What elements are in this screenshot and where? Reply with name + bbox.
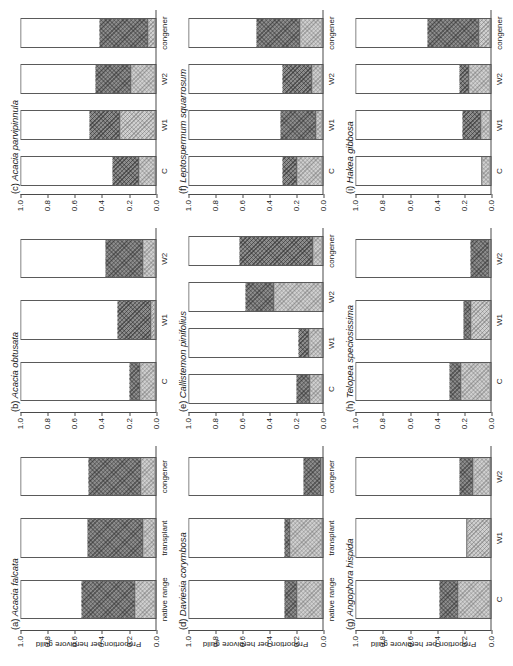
y-tick-label-b-1: 0.8 [43,418,51,429]
stacked-bar[interactable] [20,64,156,93]
stacked-bar[interactable] [355,457,491,496]
stacked-bar[interactable] [20,156,156,185]
stacked-bar[interactable] [355,580,491,619]
y-tick-mark-e-3 [269,412,270,416]
y-tick-mark-a-4 [129,630,130,634]
stacked-bar[interactable] [355,518,491,557]
stacked-bar[interactable] [20,300,156,339]
y-tick-mark-h-0 [355,412,356,416]
bar-segment-guild-dark [427,19,479,46]
x-tick-label: congener [323,228,339,274]
y-tick-label-e-3: 0.4 [265,418,273,429]
stacked-bar[interactable] [355,64,491,93]
y-tick-label-c-1: 0.8 [43,200,51,211]
y-axis-spine-c [20,194,156,195]
panel-title-e: (e) Callistemon pinifolius [176,228,187,412]
stacked-bar[interactable] [20,580,156,619]
stacked-bar[interactable] [188,457,324,496]
bar-segment-guild-light [458,581,490,618]
y-tick-label-i-0: 1.0 [351,200,359,211]
bar-segment-guild-light [482,157,490,184]
y-axis-d: 1.00.80.60.40.20.0Proportion per herbivo… [188,630,324,660]
x-tick-label: C [323,366,339,412]
bar-segment-guild-dark [284,581,297,618]
panel-i: (i) Hakea gibbosa1.00.80.60.40.20.0CW1W2… [341,8,509,226]
bar-segment-remainder [189,283,245,310]
y-tick-mark-i-3 [437,194,438,198]
bar-segment-guild-light [297,581,322,618]
y-tick-label-f-5: 0.0 [319,200,327,211]
bar-segment-guild-dark [298,329,309,356]
stacked-bar[interactable] [188,282,324,311]
y-tick-label-b-3: 0.4 [97,418,105,429]
stacked-bar[interactable] [188,236,324,265]
plot-wrapper-a: 1.00.80.60.40.20.0Proportion per herbivo… [20,446,156,660]
bar-slot [188,507,324,568]
plot-wrapper-i: 1.00.80.60.40.20.0 [355,10,491,224]
bar-slot [188,320,324,366]
y-axis-spine-b [20,412,156,413]
stacked-bar[interactable] [20,110,156,139]
x-axis-g: CW1W2 [491,446,507,630]
stacked-bar[interactable] [20,457,156,496]
stacked-bar[interactable] [355,18,491,47]
stacked-bar[interactable] [188,374,324,403]
stacked-bar[interactable] [355,239,491,278]
y-axis-spine-a [20,630,156,631]
y-tick-mark-c-5 [156,194,157,198]
stacked-bar[interactable] [355,156,491,185]
stacked-bar[interactable] [355,362,491,401]
bar-segment-guild-dark [282,157,297,184]
plot-area-i [355,10,491,194]
stacked-bar[interactable] [188,580,324,619]
plot-wrapper-b: 1.00.80.60.40.20.0 [20,228,156,442]
stacked-bar[interactable] [20,518,156,557]
stacked-bar[interactable] [20,18,156,47]
x-tick-label: W1 [491,507,507,568]
bar-segment-remainder [189,111,280,138]
stacked-bar[interactable] [188,328,324,357]
stacked-bar[interactable] [188,110,324,139]
y-tick-mark-d-3 [269,630,270,634]
bar-segment-remainder [356,519,466,556]
stacked-bar[interactable] [188,518,324,557]
y-tick-label-i-5: 0.0 [487,200,495,211]
bar-segment-remainder [189,237,240,264]
plot-wrapper-h: 1.00.80.60.40.20.0 [355,228,491,442]
y-tick-label-d-5: 0.0 [319,636,327,647]
bar-segment-remainder [356,458,459,495]
y-tick-label-f-0: 1.0 [184,200,192,211]
y-tick-mark-i-2 [410,194,411,198]
x-tick-label: W2 [491,56,507,102]
stacked-bar[interactable] [355,110,491,139]
bar-slot [355,351,491,412]
stacked-bar[interactable] [20,362,156,401]
x-tick-label: W2 [156,56,172,102]
stacked-bar[interactable] [355,300,491,339]
bar-segment-remainder [356,65,459,92]
y-tick-mark-f-1 [215,194,216,198]
bar-segment-remainder [21,65,95,92]
panel-species-e: Callistemon pinifolius [176,311,187,398]
bar-segment-guild-dark [112,157,139,184]
bar-segment-guild-dark [87,519,143,556]
stacked-bar[interactable] [20,239,156,278]
panel-species-f: Leptospermum squarrosum [176,69,187,183]
bar-segment-guild-dark [245,283,274,310]
x-tick-label: transplant [323,507,339,568]
bar-segment-guild-light [467,519,490,556]
x-tick-label: C [491,351,507,412]
y-axis-spine-i [355,194,491,195]
stacked-bar[interactable] [188,156,324,185]
bar-segment-guild-dark [280,111,316,138]
stacked-bar[interactable] [188,18,324,47]
bar-segment-guild-dark [462,111,481,138]
bar-slot [355,446,491,507]
bar-segment-guild-dark [81,581,134,618]
bar-segment-remainder [21,240,105,277]
y-tick-mark-e-5 [323,412,324,416]
y-tick-mark-b-0 [20,412,21,416]
bar-slot [20,56,156,102]
stacked-bar[interactable] [188,64,324,93]
bar-segment-guild-dark [239,237,313,264]
